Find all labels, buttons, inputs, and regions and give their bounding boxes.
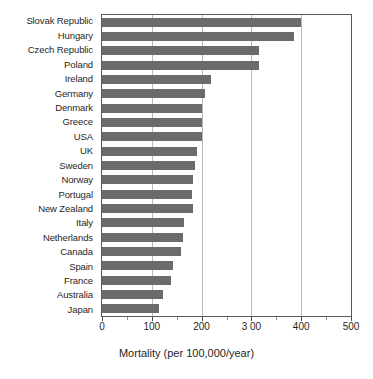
category-label: Canada — [0, 245, 97, 259]
category-label: France — [0, 274, 97, 288]
bar — [102, 218, 184, 227]
bar — [102, 104, 202, 113]
bar-row — [102, 244, 351, 258]
bar-row — [102, 101, 351, 115]
bar-row — [102, 216, 351, 230]
category-label: Czech Republic — [0, 43, 97, 57]
bar — [102, 276, 171, 285]
bar — [102, 75, 211, 84]
bar — [102, 18, 301, 27]
bar-row — [102, 72, 351, 86]
bar — [102, 147, 197, 156]
bar — [102, 132, 202, 141]
tick-label: 200 — [193, 322, 210, 332]
category-label: Australia — [0, 288, 97, 302]
tick-label: 100 — [143, 322, 160, 332]
tick-label: 400 — [293, 322, 310, 332]
value-axis: 01002003 00400500 — [101, 317, 352, 339]
minor-tick-mark — [326, 317, 327, 320]
bar — [102, 290, 163, 299]
category-label: Hungary — [0, 28, 97, 42]
category-label: UK — [0, 144, 97, 158]
category-label: Ireland — [0, 72, 97, 86]
bar-row — [102, 259, 351, 273]
tick-label: 0 — [99, 322, 105, 332]
minor-tick-mark — [177, 317, 178, 320]
bar-row — [102, 230, 351, 244]
category-label: Japan — [0, 302, 97, 316]
plot-area — [101, 14, 352, 317]
category-label: USA — [0, 129, 97, 143]
bar — [102, 89, 205, 98]
category-label: New Zealand — [0, 201, 97, 215]
x-axis-title: Mortality (per 100,000/year) — [0, 348, 373, 359]
bar-row — [102, 302, 351, 316]
mortality-bar-chart: Slovak RepublicHungaryCzech RepublicPola… — [0, 0, 373, 379]
bar — [102, 46, 259, 55]
bar-row — [102, 144, 351, 158]
bar-row — [102, 115, 351, 129]
bar — [102, 175, 193, 184]
bar-row — [102, 87, 351, 101]
category-label: Italy — [0, 216, 97, 230]
bar — [102, 233, 183, 242]
bar-row — [102, 130, 351, 144]
category-label: Poland — [0, 57, 97, 71]
bar-row — [102, 44, 351, 58]
category-label: Norway — [0, 173, 97, 187]
bar — [102, 304, 159, 313]
bar — [102, 161, 195, 170]
category-label: Netherlands — [0, 230, 97, 244]
bar-row — [102, 15, 351, 29]
category-label: Slovak Republic — [0, 14, 97, 28]
bar — [102, 247, 181, 256]
bar-row — [102, 201, 351, 215]
bar — [102, 204, 193, 213]
bar-row — [102, 173, 351, 187]
category-axis: Slovak RepublicHungaryCzech RepublicPola… — [0, 14, 97, 317]
tick-label: 3 00 — [242, 322, 261, 332]
bar-row — [102, 187, 351, 201]
bar-row — [102, 287, 351, 301]
minor-tick-mark — [127, 317, 128, 320]
category-label: Sweden — [0, 158, 97, 172]
category-label: Portugal — [0, 187, 97, 201]
category-label: Greece — [0, 115, 97, 129]
bar — [102, 118, 202, 127]
category-label: Denmark — [0, 101, 97, 115]
bar — [102, 261, 173, 270]
bar-row — [102, 29, 351, 43]
bar — [102, 32, 294, 41]
category-label: Spain — [0, 259, 97, 273]
minor-tick-mark — [227, 317, 228, 320]
bar — [102, 190, 192, 199]
tick-label: 500 — [343, 322, 360, 332]
bars-layer — [102, 15, 351, 316]
bar — [102, 61, 259, 70]
category-label: Germany — [0, 86, 97, 100]
bar-row — [102, 273, 351, 287]
bar-row — [102, 158, 351, 172]
minor-tick-mark — [276, 317, 277, 320]
bar-row — [102, 58, 351, 72]
